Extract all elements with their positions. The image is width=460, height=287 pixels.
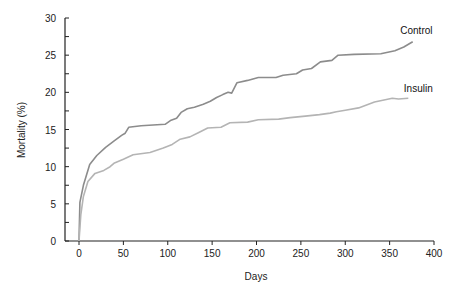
series-line-control xyxy=(79,42,413,241)
x-tick-label: 150 xyxy=(204,248,221,259)
mortality-line-chart: 051015202530 050100150200250300350400 Co… xyxy=(0,0,460,287)
x-tick-label: 400 xyxy=(426,248,443,259)
series-label-insulin: Insulin xyxy=(404,83,433,94)
y-axis: 051015202530 xyxy=(45,13,69,247)
x-tick-label: 50 xyxy=(118,248,130,259)
x-tick-label: 250 xyxy=(293,248,310,259)
x-tick-label: 200 xyxy=(248,248,265,259)
y-tick-label: 30 xyxy=(45,13,57,24)
x-tick-label: 300 xyxy=(337,248,354,259)
x-axis-title: Days xyxy=(245,271,268,282)
y-tick-label: 10 xyxy=(45,162,57,173)
x-tick-label: 350 xyxy=(381,248,398,259)
y-tick-label: 0 xyxy=(50,236,56,247)
series-line-insulin xyxy=(79,98,408,241)
x-tick-label: 0 xyxy=(76,248,82,259)
x-axis: 050100150200250300350400 xyxy=(65,241,443,259)
y-tick-label: 25 xyxy=(45,50,57,61)
y-tick-label: 20 xyxy=(45,87,57,98)
y-axis-title: Mortality (%) xyxy=(16,102,27,158)
series-label-control: Control xyxy=(400,25,432,36)
y-tick-label: 15 xyxy=(45,125,57,136)
plot-series: ControlInsulin xyxy=(79,25,433,241)
y-tick-label: 5 xyxy=(50,199,56,210)
x-tick-label: 100 xyxy=(159,248,176,259)
